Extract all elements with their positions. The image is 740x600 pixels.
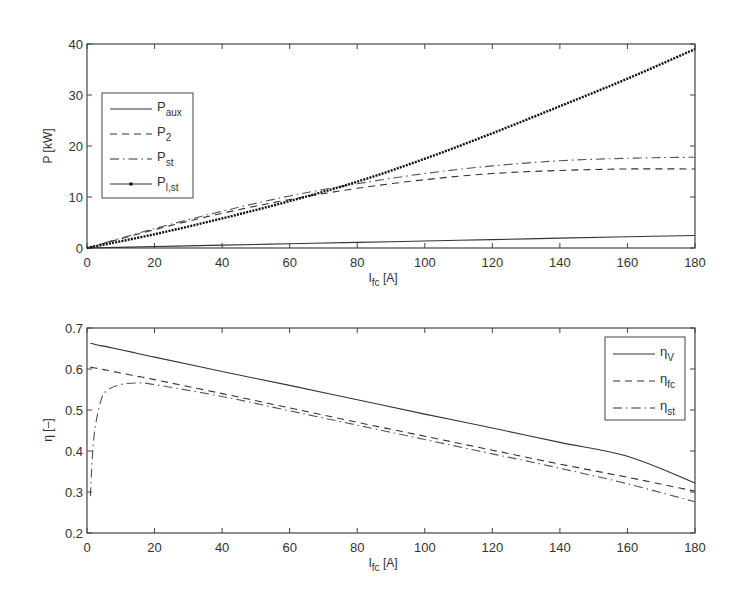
x-tick-label: 0 bbox=[83, 540, 90, 555]
x-axis-label: Ifc [A] bbox=[368, 556, 397, 573]
x-tick-label: 20 bbox=[147, 255, 161, 270]
y-axis-label: P [kW] bbox=[41, 128, 55, 163]
y-tick-label: 40 bbox=[69, 37, 83, 52]
x-tick-label: 120 bbox=[481, 255, 503, 270]
legend: ηVηfcηst bbox=[605, 337, 685, 420]
x-tick-label: 100 bbox=[414, 540, 436, 555]
x-tick-label: 60 bbox=[282, 255, 296, 270]
x-tick-label: 120 bbox=[481, 540, 503, 555]
x-axis-label: Ifc [A] bbox=[368, 271, 397, 288]
x-tick-label: 80 bbox=[350, 540, 364, 555]
y-tick-label: 0.2 bbox=[65, 526, 83, 541]
x-tick-label: 40 bbox=[215, 540, 229, 555]
x-tick-label: 80 bbox=[350, 255, 364, 270]
y-tick-label: 10 bbox=[69, 190, 83, 205]
x-tick-label: 180 bbox=[684, 540, 706, 555]
y-tick-label: 0.3 bbox=[65, 485, 83, 500]
y-tick-label: 0 bbox=[76, 241, 83, 256]
x-tick-label: 40 bbox=[215, 255, 229, 270]
x-tick-label: 60 bbox=[282, 540, 296, 555]
x-tick-label: 20 bbox=[147, 540, 161, 555]
x-tick-label: 160 bbox=[617, 255, 639, 270]
y-tick-label: 0.5 bbox=[65, 403, 83, 418]
plot-frame bbox=[87, 328, 695, 533]
x-tick-label: 140 bbox=[549, 540, 571, 555]
x-tick-label: 140 bbox=[549, 255, 571, 270]
series--fc bbox=[90, 367, 695, 491]
power-chart: 020406080100120140160180010203040Ifc [A]… bbox=[41, 37, 706, 288]
figure: 020406080100120140160180010203040Ifc [A]… bbox=[0, 0, 740, 600]
y-tick-label: 20 bbox=[69, 139, 83, 154]
y-tick-label: 30 bbox=[69, 88, 83, 103]
y-tick-label: 0.6 bbox=[65, 362, 83, 377]
x-tick-label: 180 bbox=[684, 255, 706, 270]
x-tick-label: 100 bbox=[414, 255, 436, 270]
y-axis-label: η [–] bbox=[41, 418, 55, 441]
y-tick-label: 0.4 bbox=[65, 444, 83, 459]
series--v bbox=[90, 343, 695, 483]
series-p-aux bbox=[87, 236, 695, 248]
x-tick-label: 0 bbox=[83, 255, 90, 270]
efficiency-chart: 0204060801001201401601800.20.30.40.50.60… bbox=[41, 321, 706, 573]
x-tick-label: 160 bbox=[617, 540, 639, 555]
series--st bbox=[90, 383, 695, 502]
y-tick-label: 0.7 bbox=[65, 321, 83, 336]
legend: PauxP2PstPl,st bbox=[102, 93, 193, 198]
